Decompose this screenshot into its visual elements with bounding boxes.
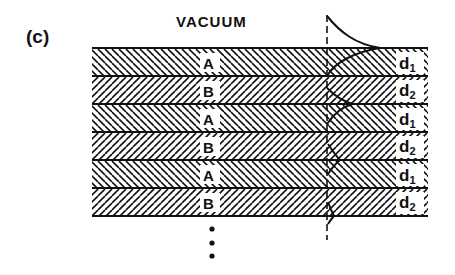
material-label: B — [203, 139, 214, 156]
material-label: A — [203, 167, 214, 184]
material-label: B — [203, 195, 214, 212]
layer-b-3 — [92, 188, 428, 216]
layer-b-1 — [92, 76, 428, 104]
continuation-ellipsis — [209, 226, 214, 258]
layer-stack — [92, 48, 428, 216]
layer-a-1 — [92, 48, 428, 76]
panel-label: (c) — [26, 26, 49, 47]
vacuum-label: VACUUM — [176, 13, 247, 30]
material-label: A — [203, 55, 214, 72]
superlattice-diagram: (c) VACUUM A B — [0, 0, 455, 275]
layer-b-2 — [92, 132, 428, 160]
layer-a-3 — [92, 160, 428, 188]
layer-a-2 — [92, 104, 428, 132]
material-label: A — [203, 111, 214, 128]
material-label: B — [203, 83, 214, 100]
